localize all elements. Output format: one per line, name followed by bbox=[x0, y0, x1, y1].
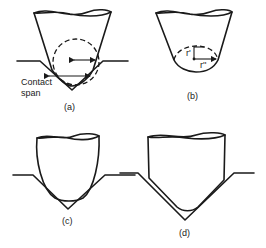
caption-a: (a) bbox=[64, 102, 75, 112]
r-prime-label: r' bbox=[186, 48, 191, 58]
panel-a: Contact span (a) bbox=[17, 10, 128, 112]
caption-d: (d) bbox=[179, 228, 190, 238]
tool-body-d bbox=[148, 135, 225, 211]
tool-top-rim-c bbox=[37, 134, 99, 140]
contact-span-label-line2: span bbox=[21, 88, 41, 98]
caption-b: (b) bbox=[187, 91, 198, 101]
tool-body-b bbox=[156, 12, 232, 72]
tip-ellipse-top-b bbox=[174, 46, 218, 60]
tool-top-rim-d bbox=[148, 133, 225, 139]
caption-c: (c) bbox=[62, 216, 73, 226]
panel-d: (d) bbox=[120, 133, 254, 238]
panel-c: (c) bbox=[13, 134, 135, 226]
panel-b: r' r'' (b) bbox=[156, 10, 232, 101]
tool-body-a bbox=[34, 12, 111, 86]
surface-profile-d bbox=[120, 173, 254, 220]
r-double-prime-label: r'' bbox=[200, 60, 207, 70]
center-point bbox=[193, 58, 196, 61]
tool-top-rim-b bbox=[156, 10, 232, 16]
tool-body-c bbox=[37, 136, 99, 201]
tool-top-rim-a bbox=[34, 10, 111, 16]
contact-span-label-line1: Contact bbox=[21, 77, 53, 87]
surface-profile-c bbox=[13, 175, 135, 209]
figure-canvas: Contact span (a) r' r'' (b) (c) (d) bbox=[0, 0, 266, 248]
